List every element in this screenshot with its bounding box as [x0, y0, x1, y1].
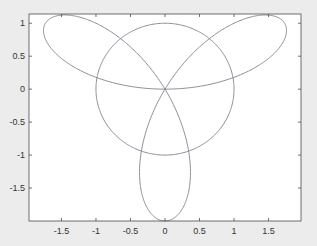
x-tick-label: -1	[92, 226, 100, 236]
x-tick-label: 1.5	[262, 226, 275, 236]
y-tick-label: -0.5	[9, 117, 25, 127]
y-tick-label: -1.5	[9, 183, 25, 193]
y-tick-label: 0	[20, 84, 25, 94]
y-tick-label: 1	[20, 18, 25, 28]
x-tick-label: -1.5	[54, 226, 70, 236]
y-tick-label: -1	[17, 150, 25, 160]
y-tick-label: 0.5	[12, 51, 25, 61]
x-tick-label: -0.5	[123, 226, 139, 236]
x-tick-label: 1	[232, 226, 237, 236]
figure: -1.5-1-0.500.511.5 -1.5-1-0.500.51	[0, 0, 317, 246]
axes-background	[29, 14, 301, 221]
x-tick-label: 0.5	[193, 226, 206, 236]
x-tick-label: 0	[162, 226, 167, 236]
